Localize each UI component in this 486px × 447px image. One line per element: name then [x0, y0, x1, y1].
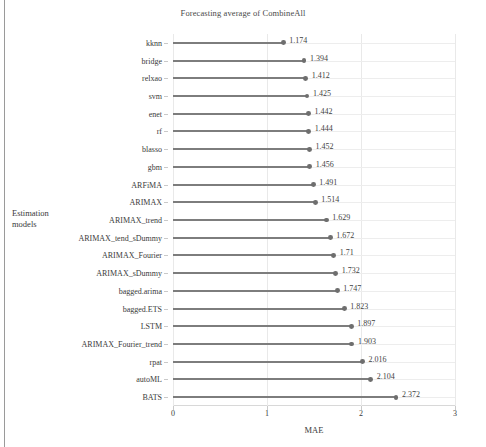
lollipop-dot[interactable] — [333, 271, 338, 276]
y-tick-mark — [164, 326, 168, 327]
y-tick-label: autoML — [136, 375, 162, 384]
data-value-label: 1.629 — [332, 213, 350, 222]
lollipop-stem — [173, 201, 315, 203]
page-canvas: Forecasting average of CombineAll Estima… — [0, 0, 486, 447]
x-axis-title: MAE — [173, 425, 455, 435]
lollipop-dot[interactable] — [281, 40, 286, 45]
lollipop-stem — [173, 361, 363, 363]
lollipop-stem — [173, 148, 309, 150]
lollipop-stem — [173, 130, 309, 132]
data-value-label: 1.823 — [350, 302, 368, 311]
data-value-label: 1.425 — [313, 89, 331, 98]
y-tick-mark — [164, 167, 168, 168]
y-tick-label: ARIMAX_trend — [109, 216, 162, 225]
y-tick-label: bagged.ETS — [123, 304, 162, 313]
data-value-label: 2.104 — [377, 372, 395, 381]
y-tick-mark — [164, 220, 168, 221]
data-value-label: 2.372 — [402, 390, 420, 399]
y-axis-tick-labels: kknnbridgerelxaosvmenetrfblassogbmARFiMA… — [0, 34, 168, 406]
y-tick-mark — [164, 379, 168, 380]
y-tick-label: bagged.arima — [119, 286, 162, 295]
lollipop-stem — [173, 60, 304, 62]
data-value-label: 1.903 — [358, 337, 376, 346]
lollipop-dot[interactable] — [368, 377, 373, 382]
lollipop-dot[interactable] — [360, 359, 365, 364]
y-tick-label: gbm — [148, 162, 162, 171]
data-value-label: 1.412 — [312, 71, 330, 80]
lollipop-stem — [173, 272, 336, 274]
lollipop-dot[interactable] — [307, 164, 312, 169]
y-tick-label: bridge — [142, 56, 162, 65]
lollipop-stem — [173, 378, 371, 380]
data-value-label: 1.672 — [336, 231, 354, 240]
y-tick-mark — [164, 291, 168, 292]
x-axis-line — [173, 405, 455, 406]
data-value-label: 1.394 — [310, 54, 328, 63]
y-tick-label: enet — [149, 109, 162, 118]
lollipop-dot[interactable] — [342, 306, 347, 311]
data-value-label: 1.491 — [319, 178, 337, 187]
y-tick-label: blasso — [142, 145, 162, 154]
lollipop-dot[interactable] — [349, 324, 354, 329]
y-tick-mark — [164, 43, 168, 44]
y-tick-label: BATS — [142, 393, 162, 402]
y-tick-mark — [164, 96, 168, 97]
plot-area: 1.1741.3941.4121.4251.4421.4441.4521.456… — [173, 34, 455, 406]
lollipop-stem — [173, 42, 283, 44]
lollipop-dot[interactable] — [349, 342, 354, 347]
data-value-label: 1.514 — [321, 195, 339, 204]
data-value-label: 2.016 — [369, 355, 387, 364]
lollipop-stem — [173, 308, 344, 310]
y-tick-mark — [164, 202, 168, 203]
chart-title: Forecasting average of CombineAll — [0, 8, 486, 18]
y-tick-label: svm — [149, 92, 162, 101]
lollipop-chart: Forecasting average of CombineAll Estima… — [0, 0, 486, 447]
lollipop-dot[interactable] — [302, 58, 307, 63]
lollipop-stem — [173, 219, 326, 221]
y-tick-label: ARIMAX_Fourier_trend — [82, 340, 162, 349]
y-tick-label: ARIMAX_tend_sDummy — [78, 233, 162, 242]
lollipop-stem — [173, 237, 330, 239]
lollipop-dot[interactable] — [305, 94, 310, 99]
y-tick-label: ARIMAX_sDummy — [96, 269, 162, 278]
lollipop-dot[interactable] — [335, 288, 340, 293]
x-tick-label: 1 — [265, 409, 269, 418]
y-tick-mark — [164, 309, 168, 310]
y-tick-mark — [164, 114, 168, 115]
y-tick-mark — [164, 362, 168, 363]
lollipop-dot[interactable] — [303, 76, 308, 81]
lollipop-stem — [173, 396, 396, 398]
lollipop-dot[interactable] — [324, 218, 329, 223]
lollipop-dot[interactable] — [313, 200, 318, 205]
lollipop-stem — [173, 166, 310, 168]
y-tick-label: rpat — [150, 357, 162, 366]
data-value-label: 1.897 — [357, 319, 375, 328]
lollipop-dot[interactable] — [394, 395, 399, 400]
y-tick-mark — [164, 185, 168, 186]
lollipop-dot[interactable] — [306, 129, 311, 134]
y-tick-mark — [164, 273, 168, 274]
x-tick-label: 0 — [171, 409, 175, 418]
y-tick-mark — [164, 131, 168, 132]
y-tick-mark — [164, 78, 168, 79]
data-value-label: 1.444 — [315, 124, 333, 133]
lollipop-stem — [173, 113, 309, 115]
lollipop-stem — [173, 77, 306, 79]
data-value-label: 1.732 — [342, 266, 360, 275]
y-tick-mark — [164, 149, 168, 150]
lollipop-dot[interactable] — [311, 182, 316, 187]
data-value-label: 1.442 — [315, 107, 333, 116]
x-tick-label: 3 — [453, 409, 457, 418]
grid-line-vertical — [455, 34, 456, 406]
lollipop-dot[interactable] — [328, 235, 333, 240]
y-tick-label: ARIMAX — [130, 198, 162, 207]
lollipop-dot[interactable] — [306, 111, 311, 116]
lollipop-stem — [173, 290, 337, 292]
y-tick-label: kknn — [146, 38, 162, 47]
lollipop-dot[interactable] — [307, 147, 312, 152]
x-tick-label: 2 — [359, 409, 363, 418]
y-tick-label: ARFiMA — [131, 180, 162, 189]
y-tick-label: LSTM — [141, 322, 162, 331]
lollipop-dot[interactable] — [331, 253, 336, 258]
data-value-label: 1.747 — [343, 284, 361, 293]
